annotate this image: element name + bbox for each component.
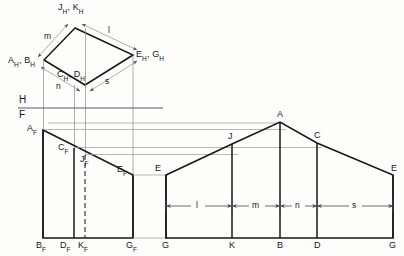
- label-dev-d: D: [314, 241, 321, 250]
- label-dev-g-left: G: [162, 241, 169, 250]
- label-jh-kh: JH, KH: [58, 3, 84, 14]
- geometry-svg: [0, 0, 404, 256]
- label-dev-g-right: G: [389, 241, 396, 250]
- label-jf: JF: [80, 155, 89, 166]
- label-ah-bh: AH, BH: [8, 56, 35, 67]
- label-af: AF: [27, 124, 37, 135]
- fold-line-label-f: F: [19, 110, 25, 120]
- development-outline: [166, 122, 393, 238]
- label-ch-dh: CH, DH: [57, 70, 85, 81]
- dimension-label-n: n: [295, 201, 300, 210]
- top-view-dimension-s: [90, 61, 137, 91]
- label-gf: GF: [126, 241, 137, 252]
- label-dev-j: J: [228, 132, 233, 141]
- dimension-label-l-top: l: [108, 26, 110, 35]
- label-df: DF: [60, 241, 71, 252]
- label-dev-b: B: [277, 241, 283, 250]
- label-dev-e-left: E: [155, 164, 161, 173]
- label-dev-e-right: E: [391, 164, 397, 173]
- fold-line-label-h: H: [19, 95, 26, 105]
- vertical-projectors: [44, 28, 134, 176]
- label-bf: BF: [36, 241, 46, 252]
- label-dev-c: C: [314, 131, 321, 140]
- label-eh-gh: EH, GH: [136, 50, 164, 61]
- dimension-label-s-top: s: [105, 77, 109, 86]
- label-dev-a: A: [277, 110, 283, 119]
- drawing-canvas: JH, KH AH, BH CH, DH EH, GH m l n s H F …: [0, 0, 404, 256]
- dimension-label-m: m: [252, 201, 259, 210]
- dimension-label-m-top: m: [44, 32, 51, 41]
- front-view-outline: [43, 130, 133, 238]
- dimension-label-n-top: n: [56, 82, 61, 91]
- label-ef: EF: [117, 165, 127, 176]
- label-cf: CF: [58, 143, 69, 154]
- label-kf: KF: [78, 241, 88, 252]
- dimension-label-l: l: [196, 201, 198, 210]
- label-dev-k: K: [229, 241, 235, 250]
- dimension-label-s: s: [352, 201, 356, 210]
